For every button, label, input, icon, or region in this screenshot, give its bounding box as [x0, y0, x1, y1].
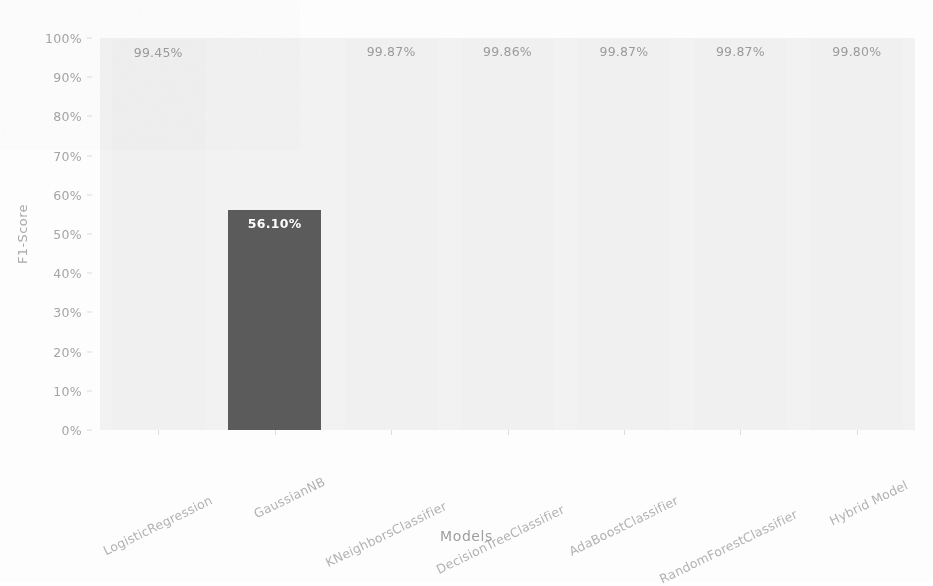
y-axis-tick-label: 60% [53, 187, 82, 202]
y-axis-tick-label: 10% [53, 383, 82, 398]
x-axis-tick-mark [391, 430, 392, 435]
y-axis-title: F1-Score [15, 204, 30, 264]
x-axis-tick-label: GaussianNB [251, 474, 327, 521]
x-axis-tick-mark [158, 430, 159, 435]
bar-value-label: 99.80% [832, 44, 881, 59]
x-axis-tick-label: LogisticRegression [101, 492, 215, 558]
x-axis-tick-mark [857, 430, 858, 435]
plot-area: 99.45%56.10%99.87%99.86%99.87%99.87%99.8… [100, 38, 915, 430]
x-axis-tick-mark [275, 430, 276, 435]
y-axis-tick-label: 30% [53, 305, 82, 320]
bar-value-label: 56.10% [248, 216, 302, 231]
y-axis-tick-mark [87, 38, 92, 39]
x-axis-tick-mark [624, 430, 625, 435]
y-axis-tick-label: 90% [53, 70, 82, 85]
bar-decisiontreeclassifier[interactable] [461, 39, 554, 430]
y-axis-tick-mark [87, 312, 92, 313]
y-axis-tick-label: 100% [45, 31, 82, 46]
y-axis-tick-mark [87, 430, 92, 431]
x-axis-tick-label: AdaBoostClassifier [566, 493, 680, 559]
bar-logisticregression[interactable] [112, 40, 205, 430]
y-axis-tick-mark [87, 234, 92, 235]
bar-value-label: 99.87% [599, 44, 648, 59]
x-axis: LogisticRegressionGaussianNBKNeighborsCl… [100, 430, 915, 540]
y-axis-tick-label: 70% [53, 148, 82, 163]
bar-value-label: 99.87% [716, 44, 765, 59]
x-axis-tick-label: Hybrid Model [827, 477, 910, 528]
y-axis-tick-mark [87, 273, 92, 274]
x-axis-title: Models [0, 528, 933, 544]
x-axis-tick-mark [740, 430, 741, 435]
x-axis-tick-mark [508, 430, 509, 435]
y-axis-tick-label: 0% [62, 423, 82, 438]
bar-adaboostclassifier[interactable] [577, 39, 670, 430]
bar-randomforestclassifier[interactable] [694, 39, 787, 430]
bar-hybrid-model[interactable] [810, 39, 903, 430]
y-axis-tick-mark [87, 351, 92, 352]
y-axis-tick-label: 40% [53, 266, 82, 281]
bar-value-label: 99.45% [134, 45, 183, 60]
y-axis-tick-mark [87, 390, 92, 391]
y-axis-tick-label: 80% [53, 109, 82, 124]
y-axis-tick-mark [87, 155, 92, 156]
bar-value-label: 99.87% [367, 44, 416, 59]
bar-value-label: 99.86% [483, 44, 532, 59]
y-axis-tick-label: 20% [53, 344, 82, 359]
bar-kneighborsclassifier[interactable] [345, 39, 438, 430]
y-axis-tick-mark [87, 116, 92, 117]
x-axis-tick-label: RandomForestClassifier [657, 506, 800, 586]
y-axis-tick-mark [87, 77, 92, 78]
y-axis-tick-label: 50% [53, 227, 82, 242]
y-axis-tick-mark [87, 194, 92, 195]
bar-gaussiannb[interactable] [228, 210, 321, 430]
